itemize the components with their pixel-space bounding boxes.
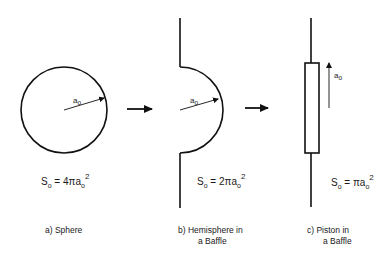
caption-sphere: a) Sphere — [45, 225, 82, 235]
radius-label-c: ao — [334, 71, 342, 81]
radius-label-b: ao — [190, 96, 198, 106]
radius-label-a: ao — [73, 96, 81, 106]
equation-hemisphere: So = 2πao2 — [197, 172, 245, 189]
diagram-canvas — [0, 0, 392, 256]
caption-hemisphere-line2: a Baffle — [198, 236, 227, 246]
piston-baffle-shape — [305, 18, 329, 207]
sphere-shape — [21, 67, 107, 153]
radius-arrow-icon — [180, 99, 218, 110]
caption-piston-line1: c) Piston in — [307, 225, 349, 235]
equation-sphere: So = 4πao2 — [41, 172, 89, 189]
caption-hemisphere-line1: b) Hemisphere in — [178, 225, 243, 235]
equation-piston: So = πao2 — [331, 173, 374, 190]
radius-arrow-icon — [64, 98, 104, 110]
caption-piston-line2: a Baffle — [323, 236, 352, 246]
